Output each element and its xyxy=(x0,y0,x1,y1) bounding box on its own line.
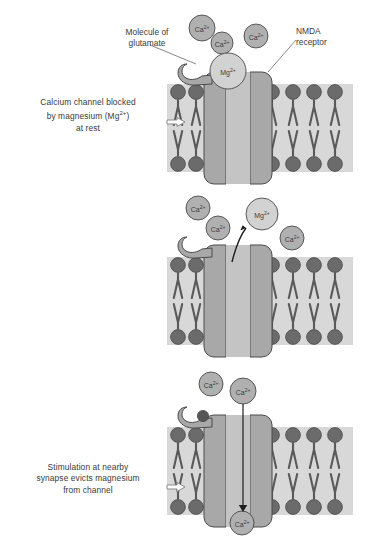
panel-rest-ion-label-ca-2: Ca2+ xyxy=(244,32,268,41)
panel-stimulation-ion-label-mg-2: Mg2+ xyxy=(246,210,278,219)
panel-rest: Calcium channel blockedby magnesium (Mg2… xyxy=(0,0,376,185)
panel-open: Glutamate molecule nowbinds with NMDA re… xyxy=(0,365,376,551)
panel-rest-ion-label-ca-1: Ca2+ xyxy=(211,39,233,48)
panel-rest-ion-label-ca-0: Ca2+ xyxy=(189,24,215,33)
panel-open-ion-label-ca-0: Ca2+ xyxy=(199,380,223,389)
panel-rest-ion-label-mg-3: Mg2+ xyxy=(210,67,246,76)
panel-open-ion-label-ca-2: Ca2+ xyxy=(230,519,254,528)
panel-stimulation-ion-label-ca-1: Ca2+ xyxy=(206,224,230,233)
label-nmda-receptor: NMDA receptor xyxy=(296,26,358,48)
panel-rest-caption: Calcium channel blockedby magnesium (Mg2… xyxy=(12,97,164,134)
label-molecule-of-glutamate: Molecule of glutamate xyxy=(108,27,186,49)
panel-stimulation-ion-label-ca-3: Ca2+ xyxy=(280,234,304,243)
figure-root: Calcium channel blockedby magnesium (Mg2… xyxy=(0,0,376,551)
panel-open-ion-label-ca-1: Ca2+ xyxy=(230,387,256,396)
panel-stimulation-ion-label-ca-0: Ca2+ xyxy=(186,204,210,213)
panel-rest-caption-arrow xyxy=(166,116,186,128)
